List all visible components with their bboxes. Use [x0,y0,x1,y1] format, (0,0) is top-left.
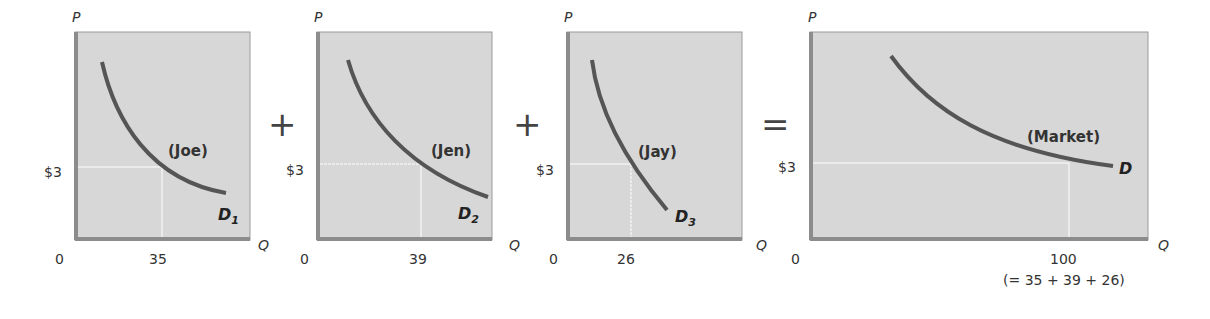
plus-operator: + [268,104,297,144]
price-tick: $3 [286,162,304,178]
x-axis-label: Q [756,237,767,253]
origin-label: 0 [300,251,309,267]
x-axis-label: Q [258,237,269,253]
y-axis-label: P [564,9,573,25]
equals-operator: = [761,104,790,144]
quantity-note: (= 35 + 39 + 26) [1003,272,1125,288]
quantity-tick: 100 [1050,251,1077,267]
origin-label: 0 [55,251,64,267]
chart-panel-market: P Q $3 0 100 (= 35 + 39 + 26) (Market) D [778,9,1169,288]
market-demand-figure: P Q $3 0 35 (Joe) D1 + P Q $3 0 39 (Jen)… [0,0,1210,319]
curve-title: (Jay) [638,143,677,161]
x-axis-label: Q [1158,237,1169,253]
x-axis-label: Q [509,237,520,253]
plus-operator: + [513,104,542,144]
chart-panel-jen: P Q $3 0 39 (Jen) D2 [286,9,520,267]
quantity-tick: 39 [409,251,427,267]
y-axis-label: P [72,9,81,25]
curve-title: (Joe) [168,142,208,160]
price-tick: $3 [44,164,62,180]
origin-label: 0 [549,251,558,267]
quantity-tick: 35 [149,251,167,267]
chart-panel-joe: P Q $3 0 35 (Joe) D1 [44,9,269,267]
y-axis-label: P [314,9,323,25]
quantity-tick: 26 [617,251,635,267]
origin-label: 0 [791,251,800,267]
curve-title: (Market) [1027,128,1100,146]
chart-panel-jay: P Q $3 0 26 (Jay) D3 [536,9,767,267]
curve-label: D [1119,159,1132,178]
curve-title: (Jen) [431,142,471,160]
price-tick: $3 [536,162,554,178]
price-tick: $3 [778,159,796,175]
y-axis-label: P [808,9,817,25]
